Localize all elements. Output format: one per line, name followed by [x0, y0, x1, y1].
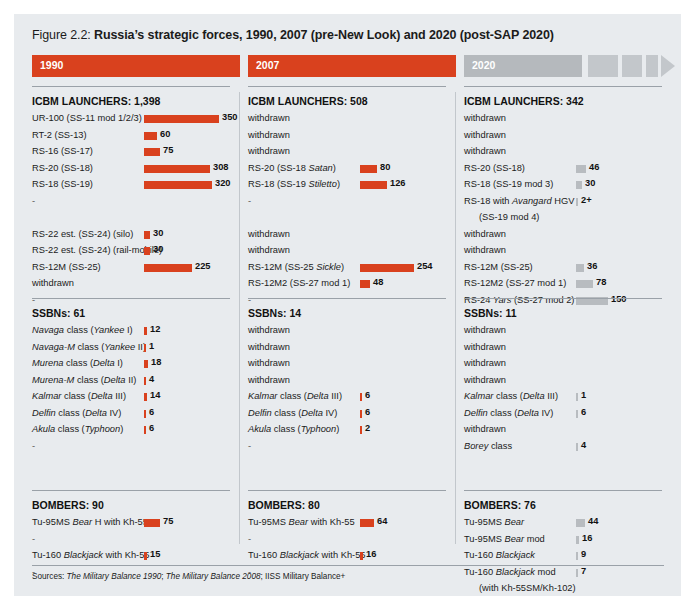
figure-title: Figure 2.2: Russia’s strategic forces, 1…: [32, 28, 554, 42]
table-row: RS-20 (SS-18)308: [32, 162, 230, 179]
table-row: Navaga-M class (Yankee II)1: [32, 341, 230, 358]
value-bar: [360, 165, 377, 173]
table-row: RS-12M (SS-25)225: [32, 261, 230, 278]
value-bar: [144, 264, 192, 272]
value-label: 80: [380, 162, 390, 172]
section-rule: [464, 490, 662, 491]
value-label: 30: [153, 244, 163, 254]
value-bar: [144, 344, 146, 352]
table-row: -: [248, 440, 446, 457]
row-label: Navaga class (Yankee I): [32, 325, 133, 335]
row-label: RS-18 (SS-19 mod 3): [464, 179, 553, 189]
timeline-band: 199020072020: [32, 55, 664, 77]
value-label: 46: [589, 162, 599, 172]
section-title: SSBNs: 11: [464, 307, 517, 319]
band-segment-2007: 2007: [248, 55, 456, 77]
value-label: 78: [596, 277, 606, 287]
band-segment-1990: 1990: [32, 55, 240, 77]
source-1: The Military Balance 1990: [67, 572, 162, 581]
value-label: 225: [195, 261, 211, 271]
table-row: withdrawn: [464, 129, 662, 146]
table-row: (with Kh-55SM/Kh-102): [464, 582, 662, 599]
value-bar: [144, 393, 147, 401]
value-label: 350: [222, 112, 238, 122]
value-label: 6: [149, 407, 154, 417]
column-divider-2: [455, 92, 456, 544]
value-bar: [576, 552, 578, 560]
table-row: -: [248, 195, 446, 212]
row-label: Tu-160 Blackjack with Kh-55: [248, 550, 366, 560]
figure-label: Figure 2.2:: [32, 28, 91, 42]
section-rule: [248, 298, 446, 299]
band-segment-4: [622, 55, 642, 77]
row-label: Tu-95MS Bear mod: [464, 534, 545, 544]
row-label: RS-16 (SS-17): [32, 146, 93, 156]
sources-line: Sources: The Military Balance 1990; The …: [32, 572, 345, 581]
row-label: Tu-95MS Bear H with Kh-55: [32, 517, 148, 527]
table-row: RT-2 (SS-13)60: [32, 129, 230, 146]
section-rule: [248, 490, 446, 491]
row-placeholder-dash: -: [248, 441, 251, 451]
band-label-2020: 2020: [472, 59, 495, 71]
section-rule: [32, 298, 230, 299]
value-label: 75: [163, 516, 173, 526]
figure-title-text: Russia’s strategic forces, 1990, 2007 (p…: [94, 28, 554, 42]
value-label: 16: [582, 533, 592, 543]
section-title: BOMBERS: 90: [32, 499, 104, 511]
row-label: withdrawn: [464, 146, 506, 156]
row-label: withdrawn: [464, 130, 506, 140]
value-bar: [360, 426, 362, 434]
table-row: RS-12M (SS-25)36: [464, 261, 662, 278]
row-label: RS-18 (SS-19 Stiletto): [248, 179, 340, 189]
table-row: Navaga class (Yankee I)12: [32, 324, 230, 341]
table-row: Kalmar class (Delta III)6: [248, 390, 446, 407]
value-label: 64: [377, 516, 387, 526]
table-row: withdrawn: [248, 357, 446, 374]
row-label: withdrawn: [464, 229, 506, 239]
table-row: withdrawn: [464, 145, 662, 162]
row-label: withdrawn: [464, 325, 506, 335]
table-row: withdrawn: [464, 357, 662, 374]
row-placeholder-dash: -: [32, 534, 35, 544]
value-bar: [576, 198, 578, 206]
section-title: SSBNs: 14: [248, 307, 301, 319]
row-label: UR-100 (SS-11 mod 1/2/3): [32, 113, 142, 123]
section-title: BOMBERS: 76: [464, 499, 536, 511]
table-row: Delfin class (Delta IV)6: [464, 407, 662, 424]
table-row: Tu-160 Blackjack9: [464, 549, 662, 566]
row-label: withdrawn: [464, 358, 506, 368]
band-label-2007: 2007: [256, 59, 279, 71]
table-row: withdrawn: [248, 129, 446, 146]
row-label: RS-12M (SS-25): [32, 262, 101, 272]
value-label: 4: [581, 440, 586, 450]
table-row: withdrawn: [248, 374, 446, 391]
value-label: 12: [150, 324, 160, 334]
row-label: Delfin class (Delta IV): [248, 408, 337, 418]
column-2007: ICBM LAUNCHERS: 508withdrawnwithdrawnwit…: [248, 86, 446, 556]
table-row: RS-22 est. (SS-24) (rail-mobile)30: [32, 244, 230, 261]
table-row: Tu-160 Blackjack with Kh-5516: [248, 549, 446, 566]
table-row: Murena-M class (Delta II)4: [32, 374, 230, 391]
row-label: withdrawn: [464, 245, 506, 255]
value-label: 1: [149, 341, 154, 351]
table-row: UR-100 (SS-11 mod 1/2/3)350: [32, 112, 230, 129]
value-label: 15: [150, 549, 160, 559]
row-label: withdrawn: [248, 245, 290, 255]
row-label: RS-18 (SS-19): [32, 179, 93, 189]
row-placeholder-dash: -: [248, 196, 251, 206]
table-row: -: [248, 533, 446, 550]
row-label: Kalmar class (Delta III): [32, 391, 126, 401]
value-bar: [360, 280, 370, 288]
row-label: RS-22 est. (SS-24) (rail-mobile): [32, 245, 162, 255]
row-label: Navaga-M class (Yankee II): [32, 342, 146, 352]
table-row: withdrawn: [464, 244, 662, 261]
row-label: withdrawn: [32, 278, 74, 288]
value-bar: [360, 552, 363, 560]
value-label: 6: [581, 407, 586, 417]
table-row: [32, 211, 230, 228]
row-label: Tu-95MS Bear with Kh-55: [248, 517, 355, 527]
table-row: Tu-160 Blackjack mod7: [464, 566, 662, 583]
value-bar: [144, 426, 146, 434]
table-row: Delfin class (Delta IV)6: [32, 407, 230, 424]
row-label: withdrawn: [248, 325, 290, 335]
